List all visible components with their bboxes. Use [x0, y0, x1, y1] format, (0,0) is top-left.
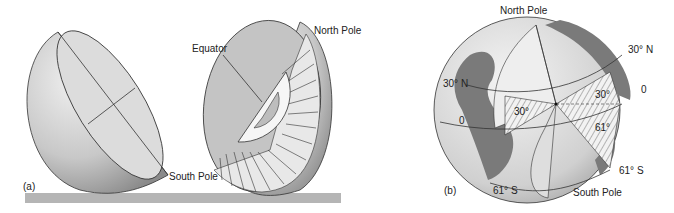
lat-30n-right: 30° N — [628, 45, 653, 55]
south-pole-label-a: South Pole — [169, 172, 218, 182]
lat-61s-bottom: 61° S — [493, 186, 518, 196]
globe — [434, 17, 631, 203]
south-pole-label-b: South Pole — [573, 188, 622, 198]
equator-label: Equator — [192, 44, 227, 54]
ground-bar — [25, 193, 341, 203]
panel-b-label: (b) — [444, 186, 456, 196]
angle-61: 61° — [595, 123, 610, 133]
north-pole-label-b: North Pole — [500, 6, 547, 16]
left-hemisphere — [27, 15, 183, 194]
angle-30-left: 30° — [514, 107, 529, 117]
zero-left: 0 — [459, 116, 465, 126]
zero-right: 0 — [641, 85, 647, 95]
lat-30n-left: 30° N — [443, 79, 468, 89]
panel-a-label: (a) — [23, 182, 35, 192]
north-pole-label-a: North Pole — [314, 26, 361, 36]
lat-61s-right: 61° S — [619, 166, 644, 176]
angle-30-right: 30° — [595, 90, 610, 100]
